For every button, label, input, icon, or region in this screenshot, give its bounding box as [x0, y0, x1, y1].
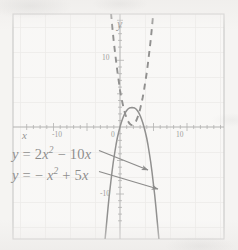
eq-upper-power: 2: [49, 145, 54, 155]
eq-upper-lhs: y: [12, 146, 19, 162]
equation-label-upper: y = 2x2 − 10x: [12, 145, 91, 163]
eq-upper-var: x: [42, 146, 49, 162]
eq-lower-equals: =: [22, 167, 30, 183]
x-tick-label-neg10: -10: [52, 131, 62, 139]
eq-upper-coef-b: 10: [70, 146, 85, 162]
graph-figure: y x 10 -10 -10 0 10 y = 2x2 − 10x y = − …: [0, 0, 238, 250]
eq-lower-var2: x: [82, 167, 89, 183]
eq-upper-operator: −: [58, 146, 66, 162]
eq-lower-operator-1: −: [35, 167, 43, 183]
x-axis-name: x: [22, 130, 27, 141]
eq-lower-operator-2: +: [62, 167, 70, 183]
eq-lower-coef-b: 5: [75, 167, 82, 183]
y-axis-name: y: [117, 18, 122, 30]
eq-lower-lhs: y: [12, 167, 19, 183]
eq-upper-equals: =: [22, 146, 30, 162]
eq-lower-power: 2: [54, 166, 59, 176]
equation-label-lower: y = − x2 + 5x: [12, 166, 89, 184]
eq-upper-var2: x: [85, 146, 92, 162]
x-tick-label-0: 0: [111, 131, 115, 139]
y-tick-label-neg10: -10: [100, 190, 110, 198]
x-tick-label-10: 10: [176, 131, 184, 139]
plot-area: [0, 0, 238, 250]
y-tick-label-10: 10: [102, 54, 110, 62]
eq-lower-var: x: [47, 167, 54, 183]
